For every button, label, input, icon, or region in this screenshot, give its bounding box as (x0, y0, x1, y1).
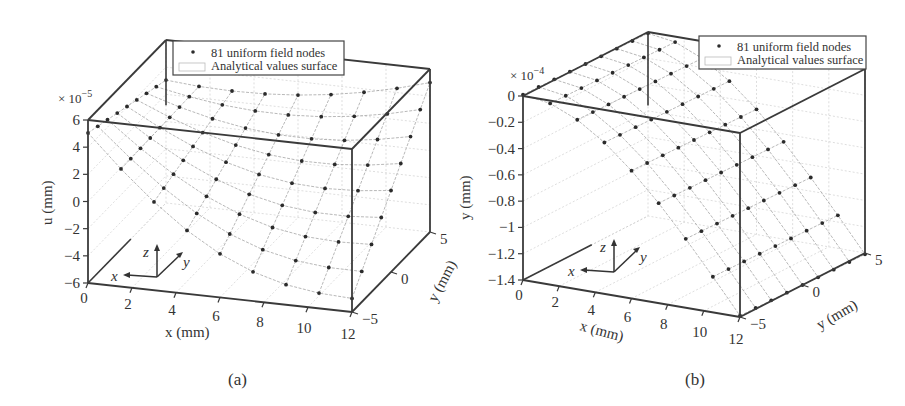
field-node (793, 183, 797, 187)
field-node (238, 212, 242, 216)
field-node (595, 79, 599, 83)
field-node (681, 102, 685, 106)
z-tick-label: 2 (73, 166, 81, 182)
field-node (618, 133, 622, 137)
field-node (317, 291, 321, 295)
z-tick-label: 0 (508, 88, 516, 104)
triad-y-label: y (638, 249, 647, 265)
field-node (715, 222, 719, 226)
field-node (575, 118, 579, 122)
y-tick-label: 5 (440, 231, 448, 247)
field-node (366, 163, 370, 167)
z-tick-label: −0.2 (488, 114, 515, 130)
axis-triad: zxy (110, 244, 190, 284)
legend-label-surface: Analytical values surface (211, 59, 338, 73)
field-node (152, 200, 156, 204)
field-node (310, 137, 314, 141)
x-tick-label: 8 (660, 316, 668, 332)
field-node (622, 95, 626, 99)
surface-mesh (88, 80, 430, 298)
field-node (168, 115, 172, 119)
field-node (789, 236, 793, 240)
field-node (253, 109, 257, 113)
field-node (362, 90, 366, 94)
field-node (304, 235, 308, 239)
triad-y-label: y (181, 254, 190, 270)
z-tick-label: 6 (73, 112, 81, 128)
field-node (661, 153, 665, 157)
field-node (727, 267, 731, 271)
triad-x-label: x (567, 263, 575, 279)
field-node (294, 259, 298, 263)
field-node (676, 146, 680, 150)
axis-ticks: −6−4−20246024681012−505 (64, 112, 447, 342)
x-tick-label: 2 (551, 294, 559, 310)
dot-marker-icon (191, 50, 195, 54)
field-node (708, 130, 712, 134)
legend-label-nodes: 81 uniform field nodes (737, 40, 851, 54)
field-node (360, 270, 364, 274)
x-tick-label: 12 (341, 326, 356, 342)
z-tick-label: −1.4 (488, 272, 516, 288)
field-node (379, 216, 383, 220)
z-multiplier-label: × 10−4 (510, 65, 544, 83)
field-node (135, 98, 139, 102)
y-tick-label: −5 (750, 316, 766, 332)
x-tick-label: 0 (80, 290, 88, 306)
z-tick-label: −2 (64, 221, 80, 237)
x-tick-label: 6 (624, 309, 632, 325)
field-node (263, 92, 267, 96)
legend: 81 uniform field nodes Analytical values… (699, 36, 866, 69)
field-node (191, 145, 195, 149)
field-node (746, 206, 750, 210)
caption-a: (a) (228, 370, 247, 389)
z-tick-label: −1 (499, 219, 515, 235)
y-axis-label: y (mm) (814, 296, 861, 333)
field-node (290, 181, 294, 185)
field-node (611, 71, 615, 75)
field-node (280, 203, 284, 207)
field-node (731, 214, 735, 218)
z-tick-label: −6 (64, 275, 80, 291)
field-node (106, 118, 110, 122)
field-node (735, 163, 739, 167)
field-node (723, 123, 727, 127)
field-node (653, 79, 657, 83)
field-node (685, 64, 689, 68)
field-node (129, 157, 133, 161)
field-node (762, 199, 766, 203)
field-node (261, 248, 265, 252)
x-tick-label: 2 (124, 296, 132, 312)
field-node (115, 111, 119, 115)
field-node (805, 229, 809, 233)
arrow-left-icon (580, 267, 587, 273)
x-tick-label: 8 (256, 314, 264, 330)
field-node (809, 176, 813, 180)
field-node (755, 107, 759, 111)
field-node (224, 160, 228, 164)
field-node (657, 201, 661, 205)
x-axis-label: x (mm) (578, 317, 625, 345)
field-node (220, 103, 224, 107)
field-node (154, 85, 158, 89)
y-tick-label: −5 (362, 311, 378, 327)
z-tick-label: 4 (73, 139, 81, 155)
z-tick-label: 0 (73, 194, 81, 210)
field-node (352, 114, 356, 118)
chart-panel-b: −1.4−1.2−1−0.8−0.6−0.4−0.20024681012−505… (457, 31, 883, 389)
field-node (284, 283, 288, 287)
field-node (418, 108, 422, 112)
field-node (230, 89, 234, 93)
field-node (327, 266, 331, 270)
z-tick-label: −1.2 (488, 246, 515, 262)
field-node (296, 93, 300, 97)
y-tick-label: 0 (401, 271, 409, 287)
field-node (634, 125, 638, 129)
triad-x-label: x (110, 268, 118, 284)
x-tick-label: 0 (515, 287, 523, 303)
field-node (642, 56, 646, 60)
y-tick-label: 0 (813, 284, 821, 300)
field-node (579, 86, 583, 90)
field-node (286, 113, 290, 117)
x-tick-label: 12 (729, 331, 744, 347)
